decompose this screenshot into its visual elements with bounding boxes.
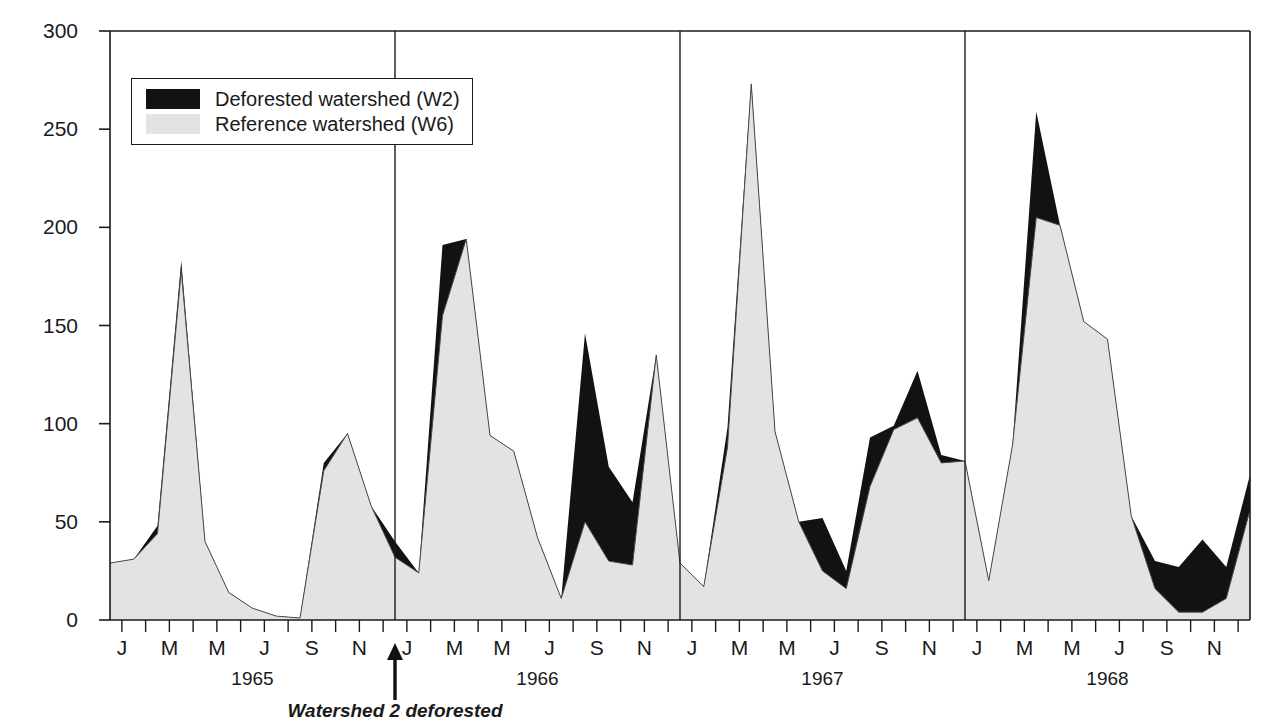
x-month-label: J [972,636,983,660]
legend-swatch-deforested [146,89,200,109]
x-month-label: M [1063,636,1081,660]
x-month-label: M [778,636,796,660]
chart-root: Monthly stream flow (mm/mo) 300250200150… [0,0,1275,726]
x-month-label: M [731,636,749,660]
x-month-label: N [637,636,652,660]
x-month-label: S [1160,636,1174,660]
x-month-label: M [208,636,226,660]
legend-label-reference: Reference watershed (W6) [215,114,454,134]
x-month-label: S [305,636,319,660]
chart-legend: Deforested watershed (W2) Reference wate… [131,78,473,145]
legend-label-deforested: Deforested watershed (W2) [215,89,460,109]
x-month-label: M [446,636,464,660]
legend-swatch-reference [146,114,200,134]
x-month-label: J [829,636,840,660]
x-month-label: J [259,636,270,660]
deforestation-annotation: Watershed 2 deforested [287,700,502,722]
x-month-label: M [1016,636,1034,660]
x-month-label: M [161,636,179,660]
x-month-label: J [544,636,555,660]
x-month-label: N [922,636,937,660]
x-year-label-1967: 1967 [801,668,843,690]
deforestation-arrow-icon [387,643,403,700]
x-year-label-1968: 1968 [1086,668,1128,690]
x-month-label: J [687,636,698,660]
x-month-label: J [402,636,413,660]
right-mask [1250,0,1275,726]
x-month-label: N [1207,636,1222,660]
x-month-label: J [1114,636,1125,660]
x-year-label-1965: 1965 [231,668,273,690]
x-month-label: J [117,636,128,660]
legend-item-deforested: Deforested watershed (W2) [146,86,456,111]
x-month-label: M [493,636,511,660]
x-month-label: S [590,636,604,660]
x-month-label: S [875,636,889,660]
x-month-label: N [352,636,367,660]
legend-item-reference: Reference watershed (W6) [146,111,456,136]
x-year-label-1966: 1966 [516,668,558,690]
